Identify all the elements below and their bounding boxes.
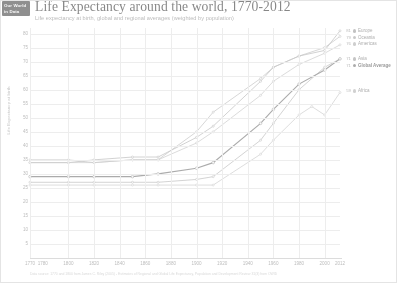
legend-label: Global Average xyxy=(358,63,391,69)
page-subtitle: Life expectancy at birth, global and reg… xyxy=(35,15,234,22)
grid-line-horizontal xyxy=(30,132,340,133)
logo-line-2: in Data xyxy=(4,9,29,15)
x-tick-label: 1840 xyxy=(115,261,125,267)
data-point xyxy=(131,175,134,178)
x-tick-label: 2000 xyxy=(320,261,330,267)
legend-color-swatch-icon xyxy=(353,42,356,45)
data-point xyxy=(212,184,214,186)
data-point xyxy=(260,153,262,155)
data-point xyxy=(212,125,214,127)
grid-line-vertical xyxy=(145,28,146,258)
data-point xyxy=(212,176,214,178)
grid-line-vertical xyxy=(197,28,198,258)
data-point xyxy=(212,161,215,164)
page-title: Life Expectancy around the world, 1770-2… xyxy=(35,0,291,14)
legend-end-value: 71 xyxy=(342,56,351,62)
grid-line-vertical xyxy=(248,28,249,258)
x-tick-label: 1780 xyxy=(38,261,48,267)
chart-header: Our World in Data Life Expectancy around… xyxy=(0,0,397,26)
source-note: Data source: 1770 and 1800 from James C.… xyxy=(30,272,330,277)
owid-logo: Our World in Data xyxy=(2,1,30,16)
grid-line-horizontal xyxy=(30,118,340,119)
legend-color-swatch-icon xyxy=(353,57,356,60)
legend-color-swatch-icon xyxy=(353,64,356,67)
x-tick-label: 2012 xyxy=(335,261,345,267)
data-point xyxy=(131,184,133,186)
legend-end-value: 79 xyxy=(342,35,351,41)
y-tick-label: 5 xyxy=(2,241,28,246)
data-point xyxy=(339,91,341,93)
legend-label: Oceania xyxy=(358,35,375,41)
grid-line-horizontal xyxy=(30,160,340,161)
data-point xyxy=(131,156,133,158)
grid-line-vertical xyxy=(120,28,121,258)
y-tick-label: 80 xyxy=(2,31,28,36)
x-tick-label: 1940 xyxy=(243,261,253,267)
legend-color-swatch-icon xyxy=(353,29,356,32)
x-tick-label: 1980 xyxy=(294,261,304,267)
grid-line-horizontal xyxy=(30,146,340,147)
chart-legend: 81Europe79Oceania76Americas71Asia71Globa… xyxy=(342,28,397,106)
data-point xyxy=(260,77,262,79)
data-point xyxy=(157,181,159,183)
grid-line-horizontal xyxy=(30,174,340,175)
data-point xyxy=(339,35,341,37)
grid-line-vertical xyxy=(222,28,223,258)
grid-line-horizontal xyxy=(30,76,340,77)
grid-line-vertical xyxy=(299,28,300,258)
grid-line-horizontal xyxy=(30,34,340,35)
y-axis-ticks: 8075706560555045403530252015105 xyxy=(0,28,28,259)
y-tick-label: 25 xyxy=(2,185,28,190)
y-tick-label: 70 xyxy=(2,59,28,64)
data-point xyxy=(260,139,262,141)
x-tick-label: 1900 xyxy=(191,261,201,267)
y-tick-label: 35 xyxy=(2,157,28,162)
y-tick-label: 75 xyxy=(2,45,28,50)
grid-line-horizontal xyxy=(30,230,340,231)
x-tick-label: 1960 xyxy=(268,261,278,267)
plot-area xyxy=(30,28,340,258)
legend-label: Africa xyxy=(358,88,370,94)
y-tick-label: 10 xyxy=(2,227,28,232)
grid-line-vertical xyxy=(273,28,274,258)
y-axis-label: Life Expectancy at birth xyxy=(6,76,11,146)
grid-line-horizontal xyxy=(30,62,340,63)
chart-page: Our World in Data Life Expectancy around… xyxy=(0,0,397,283)
data-point xyxy=(157,156,159,158)
y-tick-label: 30 xyxy=(2,171,28,176)
x-tick-label: 1800 xyxy=(63,261,73,267)
data-point xyxy=(157,184,159,186)
grid-line-horizontal xyxy=(30,216,340,217)
y-tick-label: 15 xyxy=(2,213,28,218)
legend-end-value: 81 xyxy=(342,28,351,34)
data-point xyxy=(339,30,341,32)
grid-line-horizontal xyxy=(30,104,340,105)
data-point xyxy=(259,122,262,125)
data-point xyxy=(260,80,262,82)
grid-line-vertical xyxy=(325,28,326,258)
legend-label: Americas xyxy=(358,41,377,47)
data-point xyxy=(339,44,341,46)
grid-line-vertical xyxy=(171,28,172,258)
grid-line-horizontal xyxy=(30,244,340,245)
grid-line-horizontal xyxy=(30,90,340,91)
legend-end-value: 76 xyxy=(342,41,351,47)
grid-line-horizontal xyxy=(30,202,340,203)
y-tick-label: 20 xyxy=(2,199,28,204)
legend-color-swatch-icon xyxy=(353,36,356,39)
data-point xyxy=(311,105,313,107)
series-line-africa xyxy=(30,93,340,186)
legend-label: Europe xyxy=(358,28,373,34)
x-axis-line xyxy=(30,258,342,259)
x-tick-label: 1820 xyxy=(89,261,99,267)
grid-line-vertical xyxy=(68,28,69,258)
grid-line-horizontal xyxy=(30,48,340,49)
grid-line-vertical xyxy=(94,28,95,258)
grid-line-vertical xyxy=(30,28,31,258)
data-point xyxy=(131,181,133,183)
legend-label: Asia xyxy=(358,56,367,62)
x-tick-label: 1770 xyxy=(25,261,35,267)
x-tick-label: 1880 xyxy=(166,261,176,267)
legend-end-value: 71 xyxy=(342,63,351,69)
x-axis-ticks: 1770178018001820184018601880190019201940… xyxy=(0,261,397,271)
